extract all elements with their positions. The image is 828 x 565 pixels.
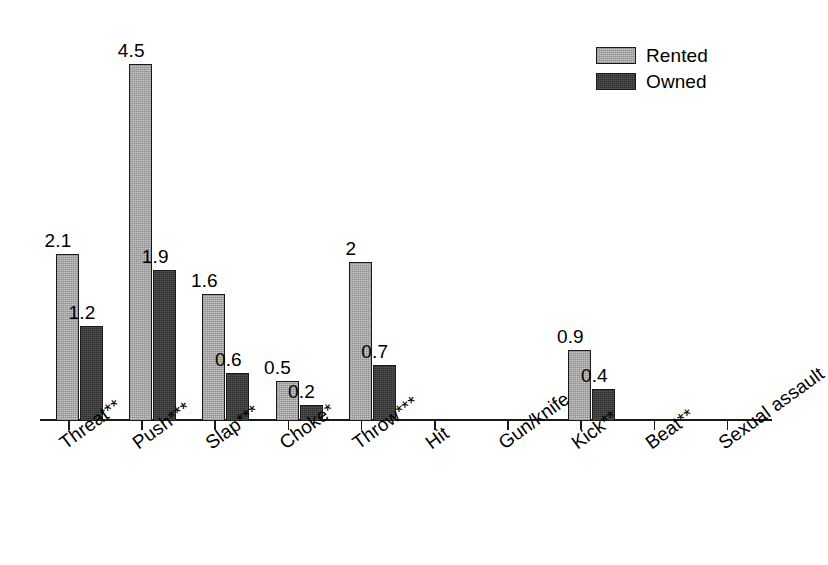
- bar-rented: [129, 64, 152, 421]
- category-label: Hit: [422, 423, 452, 452]
- bar-value-label: 0.4: [571, 366, 617, 385]
- bar-value-label: 1.9: [132, 247, 178, 266]
- bar-value-label: 0.6: [205, 350, 251, 369]
- bar-group: 4.51.9: [113, 40, 186, 421]
- bar-group: [626, 40, 699, 421]
- bar-value-label: 2.1: [35, 231, 81, 250]
- bar-group: 20.7: [333, 40, 406, 421]
- bar-value-label: 0.9: [547, 327, 593, 346]
- bar-group: 0.50.2: [260, 40, 333, 421]
- plot-area: 2.11.24.51.91.60.60.50.220.70.90.4: [40, 40, 772, 421]
- bar-group: 2.11.2: [40, 40, 113, 421]
- bar-owned: [153, 270, 176, 421]
- bar-value-label: 0.7: [352, 342, 398, 361]
- bar-value-label: 0.5: [255, 358, 301, 377]
- bar-group: 0.90.4: [552, 40, 625, 421]
- bar-value-label: 0.2: [279, 382, 325, 401]
- bar-group: [479, 40, 552, 421]
- bar-value-label: 1.6: [181, 271, 227, 290]
- bar-value-label: 1.2: [59, 303, 105, 322]
- bar-group: [406, 40, 479, 421]
- bar-value-label: 2: [328, 239, 374, 258]
- bar-group: 1.60.6: [186, 40, 259, 421]
- bar-value-label: 4.5: [108, 41, 154, 60]
- bar-group: [699, 40, 772, 421]
- bar-rented: [56, 254, 79, 421]
